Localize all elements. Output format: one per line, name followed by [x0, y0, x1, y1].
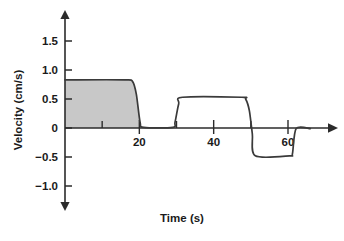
x-axis-title: Time (s)	[160, 212, 204, 224]
y-tick-label: −0.5	[35, 151, 58, 163]
shaded-area-under-curve	[65, 80, 175, 128]
y-tick-label: 1.5	[42, 35, 59, 47]
y-tick-label: −1.0	[35, 180, 58, 192]
y-axis-arrowhead-down	[60, 202, 69, 211]
x-tick-label: 40	[207, 136, 220, 148]
y-axis-arrowhead-up	[60, 10, 69, 19]
y-tick-label: 0.5	[42, 93, 59, 105]
x-axis-arrowhead	[328, 123, 338, 133]
y-tick-label: 1.0	[42, 64, 58, 76]
velocity-time-chart: 1.51.00.50−0.5−1.0 204060 Time (s) Veloc…	[0, 0, 344, 241]
y-tick-label: 0	[52, 122, 58, 134]
chart-svg: 1.51.00.50−0.5−1.0 204060 Time (s) Veloc…	[0, 0, 344, 241]
y-axis-title: Velocity (cm/s)	[12, 70, 24, 151]
x-tick-label: 20	[133, 136, 146, 148]
